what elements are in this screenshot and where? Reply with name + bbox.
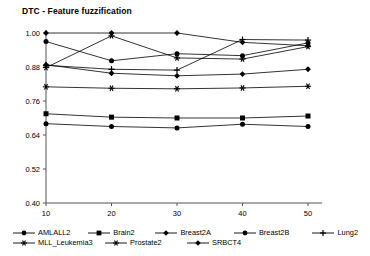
marker-circle [306,124,311,129]
legend-swatch-icon [154,228,178,238]
legend-item-srbct4[interactable]: SRBCT4 [186,238,278,248]
y-tick-label: 0.88 [25,63,40,72]
marker-circle [44,39,49,44]
legend-item-label: Lung2 [337,228,358,238]
series-group [43,30,311,130]
marker-square [175,116,180,121]
legend-item-label: AMLALL2 [38,228,70,238]
x-tick-label: 20 [107,209,115,218]
legend-swatch-icon [87,228,111,238]
marker-diamond [174,73,180,79]
legend-item-label: SRBCT4 [212,238,241,248]
legend-item-breast2b[interactable]: Breast2B [233,228,308,238]
x-tick-label: 40 [238,209,246,218]
marker-diamond [109,30,115,36]
legend-swatch-icon [186,238,210,248]
y-tick-label: 1.00 [25,29,40,38]
marker-circle [175,125,180,130]
marker-circle [22,231,27,236]
marker-diamond [305,66,311,72]
marker-circle [44,121,49,126]
marker-circle [240,53,245,58]
legend-marker-circle-filled-icon [233,228,257,238]
y-tick-label: 0.52 [25,165,40,174]
legend-item-brain2[interactable]: Brain2 [87,228,150,238]
marker-circle [109,58,114,63]
marker-square [109,115,114,120]
legend-item-mll_leukemia3[interactable]: MLL_Leukemia3 [12,238,100,248]
legend-swatch-icon [104,238,128,248]
marker-square [240,116,245,121]
legend-row-1: AMLALL2Brain2Breast2ABreast2BLung2 [12,228,362,238]
chart-container: DTC - Feature fuzzification 0.400.520.64… [0,0,370,256]
y-tick-label: 0.40 [25,199,40,208]
marker-square [44,111,49,116]
legend-swatch-icon [311,228,335,238]
legend-item-label: Prostate2 [130,238,162,248]
marker-square [97,231,102,236]
legend-marker-asterisk-icon [104,238,128,248]
series-mll_leukemia3 [43,84,311,92]
legend-marker-diamond-filled-icon [154,228,178,238]
series-amlall2 [44,39,311,63]
legend-marker-plus-icon [311,228,335,238]
series-breast2b [44,121,311,130]
chart-legend: AMLALL2Brain2Breast2ABreast2BLung2 MLL_L… [12,228,362,248]
marker-diamond [195,240,201,246]
legend-marker-diamond-filled-icon [186,238,210,248]
legend-marker-circle-filled-icon [12,228,36,238]
legend-item-breast2a[interactable]: Breast2A [154,228,229,238]
marker-diamond [174,30,180,36]
legend-swatch-icon [12,228,36,238]
legend-item-label: Breast2B [259,228,289,238]
series-brain2 [44,111,311,120]
y-tick-label: 0.64 [25,131,40,140]
legend-item-label: MLL_Leukemia3 [38,238,93,248]
legend-marker-square-filled-icon [87,228,111,238]
marker-diamond [43,30,49,36]
marker-circle [109,124,114,129]
marker-circle [243,231,248,236]
legend-row-2: MLL_Leukemia3Prostate2SRBCT4 [12,238,362,248]
marker-diamond [164,230,170,236]
x-tick-label: 30 [173,209,181,218]
legend-item-label: Breast2A [180,228,210,238]
chart-plot-area: 0.400.520.640.760.881.001020304050 [0,0,370,256]
x-tick-label: 50 [304,209,312,218]
legend-swatch-icon [12,238,36,248]
marker-diamond [240,71,246,77]
legend-swatch-icon [233,228,257,238]
legend-item-prostate2[interactable]: Prostate2 [104,238,182,248]
legend-item-label: Brain2 [113,228,134,238]
x-tick-label: 10 [42,209,50,218]
marker-square [306,114,311,119]
marker-circle [240,122,245,127]
legend-item-amlall2[interactable]: AMLALL2 [12,228,83,238]
y-tick-label: 0.76 [25,97,40,106]
legend-marker-star-icon [12,238,36,248]
legend-item-lung2[interactable]: Lung2 [311,228,358,238]
